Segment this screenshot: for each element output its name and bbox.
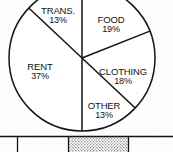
table-cell-shaded (68, 137, 128, 152)
screenshot-root: TRANS. 13% FOOD 19% RENT 37% CLOTHING 18… (0, 0, 173, 152)
bottom-table-strip (0, 0, 173, 152)
